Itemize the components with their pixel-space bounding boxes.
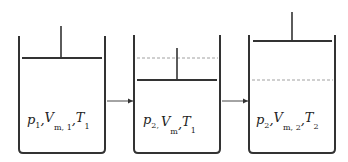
volume-subscript: m, 2 <box>283 123 301 132</box>
state-label: p2,Vm,T1 <box>143 112 196 136</box>
piston-cylinder-diagram: p1,Vm, 1,T1 p2,Vm,T1 p2,Vm, 2,T2 <box>0 0 348 162</box>
state-label: p1,Vm, 1,T1 <box>27 110 90 132</box>
volume-subscript: m, 1 <box>54 123 72 132</box>
cylinder-wall <box>249 35 335 153</box>
cylinder-state-1: p1,Vm, 1,T1 <box>19 26 105 153</box>
cylinder-state-2: p2,Vm,T1 <box>134 35 220 153</box>
temperature-subscript: 1 <box>85 122 90 131</box>
temperature-subscript: 2 <box>314 122 319 131</box>
state-label: p2,Vm, 2,T2 <box>256 110 319 132</box>
pressure-subscript: 2, <box>151 121 159 130</box>
cylinder-wall <box>19 36 105 153</box>
temperature-subscript: 1 <box>191 126 196 135</box>
cylinder-state-3: p2,Vm, 2,T2 <box>249 12 335 153</box>
